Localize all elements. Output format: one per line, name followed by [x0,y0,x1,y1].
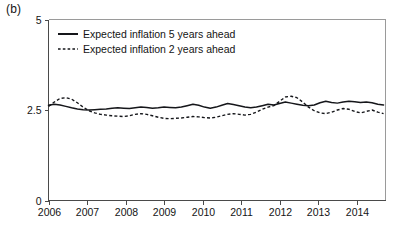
y-tick-label: 5 [36,14,42,26]
x-tick-label: 2007 [76,206,100,218]
x-axis-ticks: 200620072008200920102011201220132014 [38,201,370,218]
x-tick-label: 2008 [115,206,139,218]
legend-label-2-years-ahead: Expected inflation 2 years ahead [83,43,236,55]
x-tick-label: 2011 [230,206,253,218]
inflation-expectations-line-chart: 200620072008200920102011201220132014 02.… [0,0,397,232]
y-axis-ticks: 02.55 [27,14,49,207]
x-tick-label: 2012 [269,206,293,218]
legend-label-5-years-ahead: Expected inflation 5 years ahead [83,28,236,40]
x-tick-label: 2013 [307,206,331,218]
x-tick-label: 2009 [153,206,177,218]
figure-panel-b: (b) 200620072008200920102011201220132014… [0,0,397,232]
x-tick-label: 2006 [38,206,62,218]
y-tick-label: 2.5 [27,104,42,116]
x-tick-label: 2010 [192,206,216,218]
y-tick-label: 0 [36,195,42,207]
x-tick-label: 2014 [346,206,370,218]
chart-legend: Expected inflation 5 years aheadExpected… [58,28,236,55]
series-line-5-years-ahead [49,101,384,110]
data-series-group [49,96,384,118]
